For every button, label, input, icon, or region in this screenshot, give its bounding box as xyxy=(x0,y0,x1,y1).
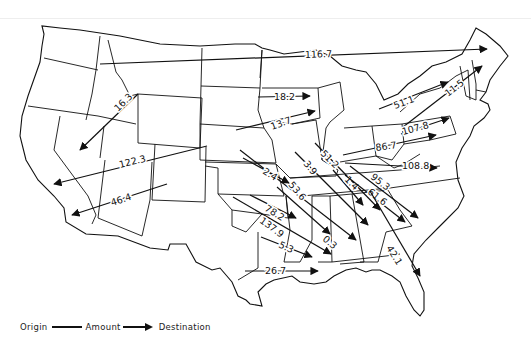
flow-amount-label: 0.3 xyxy=(321,233,340,251)
flow-line xyxy=(350,166,418,218)
flow-amount-label: 42.1 xyxy=(384,243,405,267)
flow-amount-label: 116.7 xyxy=(305,48,333,60)
flow-arrow: 122.3 xyxy=(54,146,207,184)
flow-line xyxy=(100,49,487,64)
flow-amount-label: 26.7 xyxy=(265,265,286,276)
flow-arrow: 42.1 xyxy=(370,191,420,276)
flow-amount-label: 86.7 xyxy=(375,139,397,153)
legend-arrow-line xyxy=(123,326,145,327)
flow-arrow: 16.3 xyxy=(80,91,138,150)
us-flow-map: 116.716.3122.346.418.213.751.111.5107.88… xyxy=(0,0,531,351)
flow-arrow: 51.1 xyxy=(379,82,448,111)
flow-arrows: 116.716.3122.346.418.213.751.111.5107.88… xyxy=(54,48,487,276)
flow-amount-label: 1.4 xyxy=(343,174,361,192)
legend-destination: Destination xyxy=(159,322,211,332)
flow-amount-label: 107.8 xyxy=(401,119,430,137)
flow-arrow: 107.8 xyxy=(401,118,449,137)
flow-amount-label: 122.3 xyxy=(118,153,147,170)
state-boundaries xyxy=(28,36,486,280)
flow-amount-label: 16.3 xyxy=(112,91,135,114)
flow-amount-label: 108.8 xyxy=(402,160,429,171)
flow-amount-label: 18.2 xyxy=(274,91,295,102)
legend: Origin Amount Destination xyxy=(20,320,211,334)
legend-line xyxy=(52,326,82,327)
flow-arrow: 95.3 xyxy=(350,166,418,218)
flow-amount-label: 13.7 xyxy=(269,114,293,132)
flow-arrow: 46.4 xyxy=(72,184,167,215)
legend-amount: Amount xyxy=(86,322,121,332)
flow-arrow: 116.7 xyxy=(100,48,487,64)
flow-arrow: 86.7 xyxy=(343,135,436,155)
legend-origin: Origin xyxy=(20,322,48,332)
flow-line xyxy=(379,82,448,109)
arrow-head-icon xyxy=(145,323,153,331)
flow-arrow: 26.7 xyxy=(245,265,318,276)
flow-arrow: 5.3 xyxy=(261,237,312,257)
flow-amount-label: 46.4 xyxy=(109,191,133,208)
flow-arrow: 18.2 xyxy=(258,91,310,102)
flow-amount-label: 5.3 xyxy=(277,239,295,255)
flow-arrow: 108.8 xyxy=(345,160,437,171)
